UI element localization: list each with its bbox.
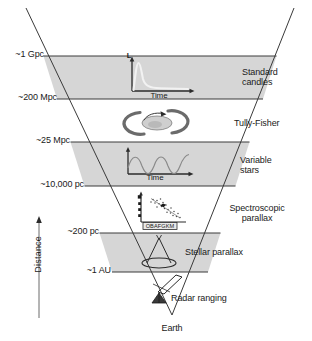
method-label-radar-ranging: Radar ranging: [171, 293, 291, 304]
method-label-standard-candles-line2: candles: [242, 77, 312, 88]
tick-label-25-mpc: ~25 Mpc: [0, 135, 70, 146]
method-label-standard-candles-line1: Standard: [242, 67, 312, 78]
tick-label-200-pc: ~200 pc: [0, 226, 99, 237]
tick-label-200-mpc: ~200 Mpc: [0, 92, 57, 103]
spiral-galaxy-icon: [124, 111, 188, 135]
cosmic-distance-ladder-diagram: ~1 Gpc ~200 Mpc ~25 Mpc ~10,000 pc ~200 …: [0, 0, 312, 341]
apex-label-earth: Earth: [134, 323, 210, 334]
method-label-variable-stars-line2: stars: [240, 165, 312, 176]
tick-label-1-gpc: ~1 Gpc: [0, 49, 44, 60]
method-label-variable-stars-line1: Variable: [240, 155, 312, 166]
light-curve-ylabel: L: [122, 51, 136, 62]
method-label-tully-fisher: Tully-Fisher: [234, 118, 312, 129]
hr-diagram-xlabel: OBAFGKM: [143, 223, 177, 230]
distance-axis-label: Distance: [33, 236, 43, 273]
method-label-spectroscopic-parallax-line1: Spectroscopic: [203, 203, 311, 214]
tick-label-10000-pc: ~10,000 pc: [0, 179, 84, 190]
tick-label-1-au: ~1 AU: [0, 265, 111, 276]
method-label-stellar-parallax: Stellar parallax: [185, 247, 305, 258]
light-curve-xlabel: Time: [136, 91, 182, 102]
method-label-spectroscopic-parallax-line2: parallax: [203, 213, 311, 224]
variable-curve-xlabel: Time: [132, 173, 178, 184]
